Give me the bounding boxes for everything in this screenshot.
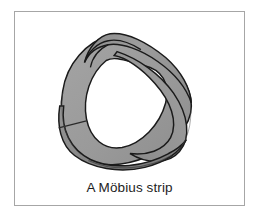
figure-root: A Möbius strip xyxy=(0,0,260,218)
mobius-strip-illustration xyxy=(15,12,244,205)
figure-caption: A Möbius strip xyxy=(15,180,244,196)
figure-frame: A Möbius strip xyxy=(14,11,245,206)
